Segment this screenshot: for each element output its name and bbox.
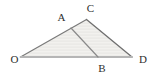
vertex-label-C: C: [87, 2, 94, 14]
vertex-label-A: A: [58, 11, 66, 23]
vertex-label-D: D: [139, 53, 147, 65]
geometry-diagram: OACBD: [0, 0, 151, 76]
diagram-svg: OACBD: [0, 0, 151, 76]
vertex-label-O: O: [11, 53, 19, 65]
vertex-label-B: B: [98, 62, 105, 74]
